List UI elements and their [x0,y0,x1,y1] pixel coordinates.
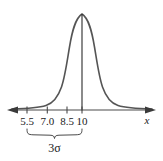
normal-distribution-figure: 5.5 7.0 8.5 10 x 3σ [0,0,163,161]
figure-canvas: 5.5 7.0 8.5 10 x 3σ [0,0,163,161]
x-axis-tick-labels: 5.5 7.0 8.5 10 [20,115,88,127]
brace-label: 3σ [48,141,61,155]
tick-label-3: 8.5 [60,115,74,127]
tick-label-2: 7.0 [40,115,54,127]
x-axis-label: x [144,114,150,126]
tick-label-1: 5.5 [20,115,34,127]
tick-label-4: 10 [77,115,89,127]
